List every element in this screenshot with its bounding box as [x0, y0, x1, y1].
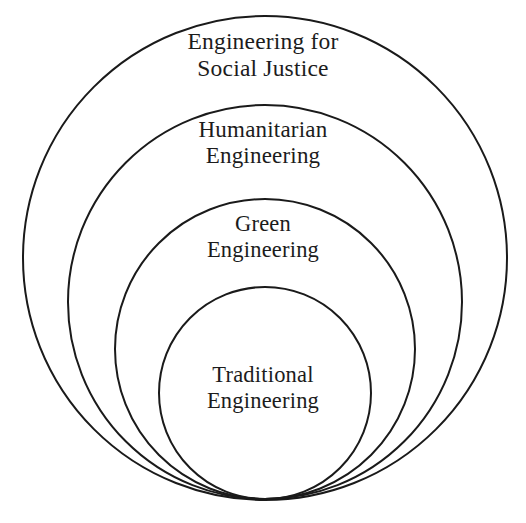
label-engineering-for-social-justice: Engineering for Social Justice — [0, 28, 526, 82]
label-line-1: Traditional — [0, 362, 526, 388]
label-line-2: Engineering — [0, 388, 526, 414]
label-line-1: Engineering for — [0, 28, 526, 55]
label-green-engineering: Green Engineering — [0, 211, 526, 262]
label-line-1: Humanitarian — [0, 117, 526, 143]
label-line-2: Social Justice — [0, 55, 526, 82]
label-line-2: Engineering — [0, 237, 526, 263]
label-traditional-engineering: Traditional Engineering — [0, 362, 526, 413]
label-line-2: Engineering — [0, 143, 526, 169]
label-line-1: Green — [0, 211, 526, 237]
label-humanitarian-engineering: Humanitarian Engineering — [0, 117, 526, 169]
nested-circles-diagram: Engineering for Social Justice Humanitar… — [0, 0, 526, 523]
